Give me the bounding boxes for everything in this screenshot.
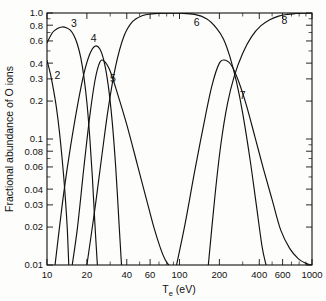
y-tick-label: 0.04 — [25, 184, 44, 195]
y-tick-label: 1.0 — [30, 7, 43, 18]
y-tick-label: 0.03 — [25, 199, 44, 210]
y-tick-label: 0.6 — [30, 35, 43, 46]
x-tick-label: 40 — [121, 269, 132, 280]
y-tick-label: 0.4 — [30, 58, 43, 69]
y-tick-label: 0.06 — [25, 161, 44, 172]
y-tick-label: 0.02 — [25, 221, 44, 232]
curve-label-2: 2 — [55, 69, 61, 81]
y-tick-label: 0.3 — [30, 73, 43, 84]
curve-label-3: 3 — [71, 17, 77, 29]
x-tick-label: 600 — [275, 269, 291, 280]
chart-canvas: 0.010.020.030.040.060.080.10.20.30.40.60… — [0, 0, 326, 301]
y-axis-title: Fractional abundance of O ions — [3, 66, 15, 212]
x-tick-label: 1000 — [301, 269, 322, 280]
x-tick-label: 100 — [172, 269, 188, 280]
curve-label-6: 6 — [194, 16, 200, 28]
y-tick-label: 0.8 — [30, 20, 43, 31]
x-tick-label: 10 — [42, 269, 53, 280]
y-tick-label: 0.2 — [30, 95, 43, 106]
curve-label-7: 7 — [240, 89, 246, 101]
x-tick-label: 20 — [82, 269, 93, 280]
x-axis-tick-labels: 102040601002004006001000 — [42, 269, 323, 280]
x-tick-label: 400 — [251, 269, 267, 280]
y-tick-label: 0.01 — [25, 259, 44, 270]
curve-label-8: 8 — [282, 14, 288, 26]
curve-label-4: 4 — [91, 32, 97, 44]
y-tick-label: 0.08 — [25, 146, 44, 157]
x-tick-label: 200 — [211, 269, 227, 280]
y-tick-label: 0.1 — [30, 133, 43, 144]
curve-label-5: 5 — [110, 72, 116, 84]
x-tick-label: 60 — [145, 269, 156, 280]
ionization-balance-chart: 0.010.020.030.040.060.080.10.20.30.40.60… — [0, 0, 326, 301]
